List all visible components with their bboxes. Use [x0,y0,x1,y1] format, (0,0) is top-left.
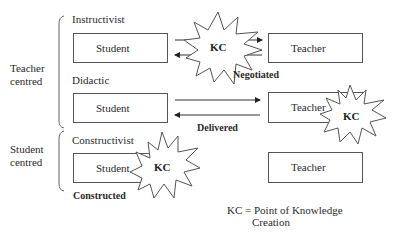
kc-label-row1: KC [210,41,227,53]
teacher-centred-brace [59,16,64,128]
legend-line1: KC = Point of Knowledge [227,204,343,216]
student-box-label: Student [96,102,130,114]
row-title-constructivist: Constructivist [72,134,134,146]
student-centred-brace [59,131,64,191]
legend-line2: Creation [252,216,290,228]
process-label-negotiated: Negotiated [233,69,279,81]
student-box-instructivist: Student [73,33,168,63]
group-label-teacher-centred-line2: centred [10,75,42,87]
group-label-student-centred-line1: Student [10,143,44,155]
student-box-didactic: Student [73,93,168,123]
group-label-teacher-centred-line1: Teacher [10,62,45,74]
process-label-delivered: Delivered [197,122,238,134]
row-title-instructivist: Instructivist [72,13,125,25]
row-title-didactic: Didactic [72,74,109,86]
teacher-box-label: Teacher [291,161,326,173]
teacher-box-label: Teacher [291,42,326,54]
process-label-constructed: Constructed [73,190,126,202]
teacher-box-instructivist: Teacher [268,33,363,63]
kc-label-row3: KC [154,161,171,173]
student-box-label: Student [96,42,130,54]
kc-label-row2: KC [343,110,360,122]
student-box-label: Student [96,162,130,174]
teacher-box-label: Teacher [291,101,326,113]
teacher-box-constructivist: Teacher [268,152,363,183]
group-label-student-centred-line2: centred [10,156,42,168]
